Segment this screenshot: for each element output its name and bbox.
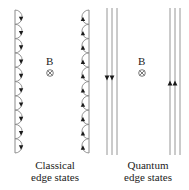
classical-right-skipping-orbits: [81, 10, 89, 153]
quantum-panel: [105, 8, 180, 155]
arrow-down-icon: [19, 45, 23, 49]
quantum-caption-line2: edge states: [108, 171, 188, 183]
quantum-right-edge-channels: [168, 8, 180, 155]
arrow-up-icon: [173, 81, 178, 86]
classical-caption-line2: edge states: [15, 171, 95, 183]
arrow-up-icon: [81, 145, 85, 149]
classical-panel: [15, 10, 89, 153]
arrow-down-icon: [19, 88, 23, 92]
arrow-down-icon: [19, 131, 23, 135]
arrow-down-icon: [19, 17, 23, 21]
quantum-caption-line1: Quantum: [108, 159, 188, 171]
arrow-down-icon: [19, 60, 23, 64]
arrow-up-icon: [81, 45, 85, 49]
arrow-up-icon: [81, 131, 85, 135]
classical-caption: Classical edge states: [15, 159, 95, 183]
arrow-up-icon: [81, 60, 85, 64]
arrow-down-icon: [19, 145, 23, 149]
arrow-down-icon: [110, 76, 115, 81]
arrow-down-icon: [19, 102, 23, 106]
arrow-down-icon: [19, 117, 23, 121]
arrow-up-icon: [81, 117, 85, 121]
arrow-up-icon: [81, 17, 85, 21]
classical-left-skipping-orbits: [15, 10, 23, 153]
classical-field-label: B: [46, 56, 53, 67]
quantum-field-label: B: [138, 56, 145, 67]
quantum-left-edge-channels: [105, 8, 117, 155]
arrow-up-icon: [81, 74, 85, 78]
arrow-down-icon: [19, 31, 23, 35]
arrow-up-icon: [81, 31, 85, 35]
arrow-down-icon: [19, 74, 23, 78]
quantum-field-into-page-icon: [139, 70, 146, 77]
quantum-caption: Quantum edge states: [108, 159, 188, 183]
arrow-down-icon: [105, 76, 110, 81]
arrow-up-icon: [81, 88, 85, 92]
arrow-up-icon: [168, 81, 173, 86]
classical-field-into-page-icon: [47, 70, 54, 77]
classical-caption-line1: Classical: [15, 159, 95, 171]
arrow-up-icon: [81, 102, 85, 106]
